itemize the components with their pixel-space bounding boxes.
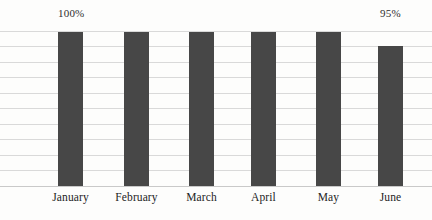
bar-chart: 100% 95% January February March April Ma… <box>0 0 432 220</box>
value-label-june: 95% <box>378 7 403 19</box>
bar-february <box>124 32 149 187</box>
bar-january <box>58 32 83 187</box>
value-label-january: 100% <box>58 7 83 19</box>
bar-may <box>316 32 341 187</box>
x-axis-line <box>0 186 432 187</box>
category-label-june: June <box>352 191 429 203</box>
plot-area <box>0 31 432 187</box>
category-axis: January February March April May June <box>0 191 432 215</box>
bar-april <box>251 32 276 187</box>
bar-march <box>189 32 214 187</box>
bar-june <box>378 46 403 187</box>
